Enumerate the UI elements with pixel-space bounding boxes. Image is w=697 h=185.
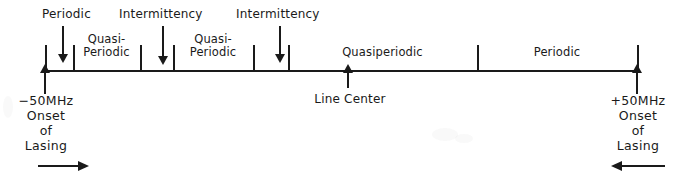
axis-tick <box>253 45 255 71</box>
callout-label-intermittency-1: Intermittency <box>119 8 203 21</box>
endpoint-marker-left <box>40 64 50 94</box>
callout-arrow-intermittency-1 <box>158 26 168 65</box>
axis-tick <box>140 45 142 71</box>
center-marker <box>343 64 353 88</box>
scan-speckle <box>455 134 473 143</box>
arrow-head-down-icon <box>275 54 285 63</box>
arrow-shaft <box>347 72 349 88</box>
arrow-shaft <box>38 165 80 167</box>
arrow-head-down-icon <box>58 54 68 63</box>
arrow-shaft <box>621 165 665 167</box>
regime-number-line-figure: Periodic Intermittency Intermittency Qua… <box>0 0 697 185</box>
arrow-head-right-icon <box>78 161 89 171</box>
arrow-shaft <box>44 72 46 94</box>
arrow-shaft <box>279 26 281 54</box>
endpoint-marker-right <box>632 64 642 94</box>
arrow-shaft <box>62 26 64 54</box>
arrow-shaft <box>636 72 638 94</box>
callout-arrow-intermittency-2 <box>275 26 285 63</box>
axis-line <box>45 70 637 72</box>
right-sweep-arrow <box>611 160 666 172</box>
segment-label-periodic: Periodic <box>477 46 637 59</box>
arrow-head-down-icon <box>158 56 168 65</box>
callout-label-periodic: Periodic <box>42 8 91 21</box>
endpoint-annotation-left: −50MHz Onset of Lasing <box>0 93 92 153</box>
segment-label-quasi-periodic-1: Quasi- Periodic <box>73 33 140 58</box>
left-sweep-arrow <box>38 160 90 172</box>
segment-label-quasi-periodic-2: Quasi- Periodic <box>173 33 253 58</box>
center-marker-label: Line Center <box>290 92 410 106</box>
callout-label-intermittency-2: Intermittency <box>236 8 320 21</box>
endpoint-annotation-right: +50MHz Onset of Lasing <box>592 93 684 153</box>
segment-label-quasiperiodic: Quasiperiodic <box>288 46 477 59</box>
callout-arrow-periodic <box>58 26 68 63</box>
arrow-shaft <box>162 26 164 56</box>
